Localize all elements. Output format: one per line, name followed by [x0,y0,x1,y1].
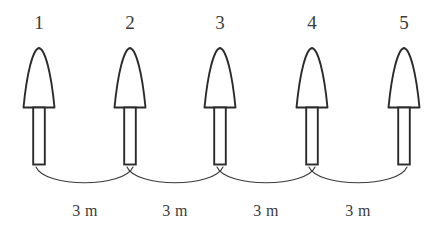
cone-post-icon [214,108,226,165]
cone-marker-3: 3 [205,12,236,165]
marker-number-5: 5 [399,12,409,33]
marker-number-1: 1 [34,12,44,33]
cone-body-icon [205,48,236,108]
cone-marker-4: 4 [297,12,328,165]
span-4-5: 3 m [309,167,407,219]
cone-post-icon [306,108,318,165]
span-label: 3 m [345,202,371,219]
span-label: 3 m [162,202,188,219]
cone-post-icon [124,108,136,165]
cone-marker-5: 5 [389,12,420,165]
span-2-3: 3 m [127,167,223,219]
span-3-4: 3 m [217,167,315,219]
span-label: 3 m [253,202,279,219]
span-arc-icon [217,167,315,183]
cone-post-icon [33,108,45,165]
cone-body-icon [297,48,328,108]
cone-body-icon [24,48,55,108]
cone-marker-1: 1 [24,12,55,165]
span-arc-icon [36,167,133,183]
marker-number-4: 4 [307,12,317,33]
marker-number-2: 2 [125,12,135,33]
diagram-canvas: 1 2 3 4 5 3 m [0,0,444,231]
span-label: 3 m [72,202,98,219]
span-arc-icon [309,167,407,183]
cone-spacing-diagram: 1 2 3 4 5 3 m [0,0,444,231]
cone-body-icon [115,48,146,108]
cone-marker-2: 2 [115,12,146,165]
cone-body-icon [389,48,420,108]
cone-post-icon [398,108,410,165]
marker-number-3: 3 [215,12,225,33]
span-1-2: 3 m [36,167,133,219]
span-arc-icon [127,167,223,183]
